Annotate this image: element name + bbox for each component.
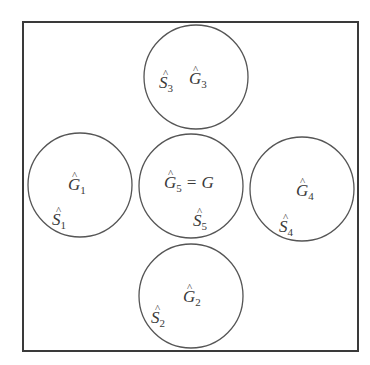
s-hat-1-label-hat: ^	[56, 204, 62, 216]
s-hat-3-label-hat: ^	[163, 67, 169, 79]
set-cover-diagram: G1^S1^G2^S2^G3^S3^G4^S4^G5= G^S5^	[0, 0, 370, 365]
s-hat-2-label-hat: ^	[155, 302, 161, 314]
s-hat-4-label-hat: ^	[283, 211, 289, 223]
g-hat-2-label-hat: ^	[187, 281, 193, 293]
s-hat-5-label-hat: ^	[197, 205, 203, 217]
labels-group: G1^S1^G2^S2^G3^S3^G4^S4^G5= G^S5^	[52, 63, 314, 329]
g-hat-1-label-hat: ^	[72, 169, 78, 181]
g-hat-4-label-hat: ^	[300, 175, 306, 187]
g-hat-3-label-hat: ^	[193, 63, 199, 75]
g-hat-5-label-hat: ^	[168, 167, 174, 179]
